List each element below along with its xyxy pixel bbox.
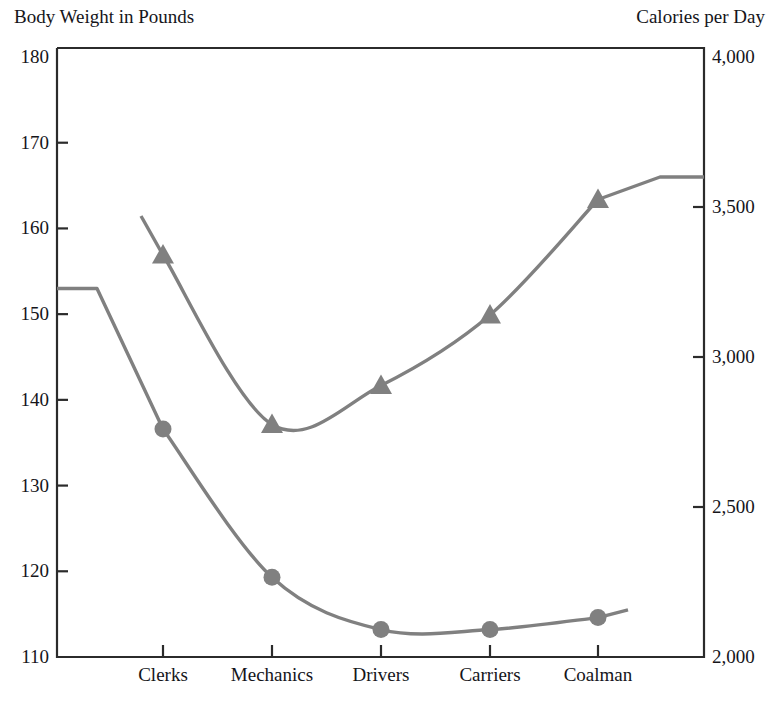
left-tick-label-150: 150 bbox=[21, 304, 50, 323]
data-point-calories-clerks bbox=[152, 244, 174, 264]
left-tick-label-120: 120 bbox=[21, 561, 50, 580]
data-point-calories-drivers bbox=[370, 375, 392, 395]
left-tick-label-140: 140 bbox=[21, 390, 50, 409]
right-tick-label-2000: 2,000 bbox=[712, 647, 755, 666]
chart-container: Body Weight in Pounds Calories per Day 1… bbox=[0, 0, 775, 708]
left-tick-label-130: 130 bbox=[21, 476, 50, 495]
right-tick-label-3000: 3,000 bbox=[712, 347, 755, 366]
right-tick-label-3500: 3,500 bbox=[712, 197, 755, 216]
category-label-coalman: Coalman bbox=[564, 665, 633, 685]
data-series bbox=[57, 177, 704, 638]
left-tick-label-110: 110 bbox=[21, 647, 49, 666]
data-point-weight-mechanics bbox=[264, 569, 281, 586]
right-tick-label-2500: 2,500 bbox=[712, 497, 755, 516]
category-label-drivers: Drivers bbox=[353, 665, 410, 685]
left-tick-label-160: 160 bbox=[21, 218, 50, 237]
axis-frame bbox=[57, 48, 704, 657]
data-point-weight-carriers bbox=[482, 621, 499, 638]
data-point-weight-drivers bbox=[373, 621, 390, 638]
category-label-clerks: Clerks bbox=[138, 665, 188, 685]
axis-ticks bbox=[57, 143, 704, 657]
category-label-carriers: Carriers bbox=[459, 665, 520, 685]
left-tick-label-180: 180 bbox=[21, 47, 50, 66]
category-label-mechanics: Mechanics bbox=[231, 665, 313, 685]
data-point-weight-clerks bbox=[155, 421, 172, 438]
left-tick-label-170: 170 bbox=[21, 133, 50, 152]
right-tick-label-4000: 4,000 bbox=[712, 47, 755, 66]
data-point-weight-coalman bbox=[590, 609, 607, 626]
plot-area bbox=[0, 0, 775, 708]
